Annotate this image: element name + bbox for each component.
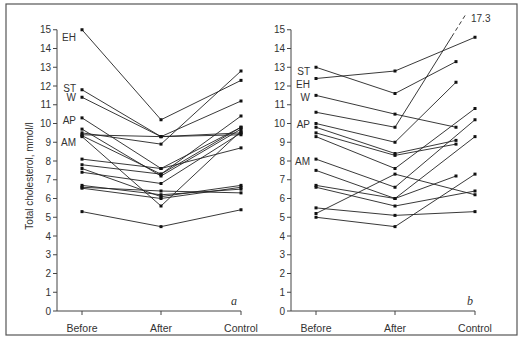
y-tick-label: 10 (274, 118, 286, 129)
y-tick-label: 11 (41, 99, 52, 110)
x-category-label: After (150, 322, 173, 334)
data-point (240, 186, 243, 189)
y-tick-label: 1 (279, 287, 285, 298)
data-point (240, 208, 243, 211)
x-category-label: Before (67, 322, 98, 334)
data-point (315, 111, 318, 114)
subject-label-eh: EH (296, 79, 310, 90)
data-point (81, 171, 84, 174)
data-point (315, 158, 318, 161)
data-point (474, 135, 477, 138)
y-tick-label: 3 (279, 249, 285, 260)
data-point (474, 107, 477, 110)
y-tick-label: 0 (45, 306, 51, 317)
data-point (315, 212, 318, 215)
y-tick-label: 5 (279, 212, 285, 223)
data-point (240, 115, 243, 118)
data-point (394, 167, 397, 170)
data-point (81, 116, 84, 119)
data-point (160, 182, 163, 185)
data-point (240, 126, 243, 129)
data-point (81, 28, 84, 31)
y-tick-label: 12 (40, 81, 52, 92)
data-point (394, 205, 397, 208)
panel-b-letter: b (467, 294, 473, 308)
data-point (315, 66, 318, 69)
data-point (394, 70, 397, 73)
data-point (160, 173, 163, 176)
data-point (474, 210, 477, 213)
data-point (315, 126, 318, 129)
y-tick-label: 0 (279, 306, 285, 317)
y-tick-label: 14 (40, 43, 52, 54)
y-tick-label: 2 (279, 268, 285, 279)
data-point (315, 122, 318, 125)
data-point (394, 92, 397, 95)
data-point (240, 70, 243, 73)
y-tick-label: 7 (279, 174, 285, 185)
y-tick-label: 4 (279, 231, 285, 242)
data-point (455, 60, 458, 63)
x-category-label: Control (458, 322, 492, 334)
y-tick-label: 8 (279, 156, 285, 167)
data-point (315, 131, 318, 134)
data-point (81, 88, 84, 91)
data-point (474, 173, 477, 176)
data-point (394, 214, 397, 217)
data-point (240, 191, 243, 194)
data-point (160, 143, 163, 146)
data-point (455, 143, 458, 146)
cholesterol-figure: Total cholesterol, mmol/l 01234567891011… (0, 0, 523, 352)
data-point (81, 167, 84, 170)
data-point (160, 205, 163, 208)
data-point (394, 154, 397, 157)
y-tick-label: 4 (45, 231, 51, 242)
subject-label-ap: AP (63, 115, 77, 126)
data-point (315, 135, 318, 138)
subject-label-ap: AP (297, 119, 311, 130)
y-tick-label: 6 (279, 193, 285, 204)
data-point (160, 167, 163, 170)
y-tick-label: 8 (45, 156, 51, 167)
subject-label-am: AM (295, 156, 310, 167)
data-point (240, 100, 243, 103)
data-point (315, 186, 318, 189)
data-point (240, 131, 243, 134)
y-tick-label: 13 (274, 62, 286, 73)
x-category-label: Before (301, 322, 332, 334)
panel-a-letter: a (231, 294, 237, 308)
y-tick-label: 1 (45, 287, 51, 298)
data-point (81, 187, 84, 190)
data-point (474, 36, 477, 39)
data-point (81, 128, 84, 131)
data-point (315, 169, 318, 172)
data-point (81, 163, 84, 166)
x-category-label: After (384, 322, 407, 334)
data-point (455, 126, 458, 129)
subject-label-w: W (301, 92, 311, 103)
y-tick-label: 14 (274, 43, 286, 54)
data-point (394, 141, 397, 144)
y-tick-label: 3 (45, 249, 51, 260)
y-tick-label: 9 (45, 137, 51, 148)
y-tick-label: 15 (40, 24, 52, 35)
data-point (160, 135, 163, 138)
data-point (394, 186, 397, 189)
data-point (81, 96, 84, 99)
data-point (394, 126, 397, 129)
subject-label-w: W (67, 92, 77, 103)
data-point (81, 134, 84, 137)
x-category-label: Control (224, 322, 258, 334)
y-axis-label: Total cholesterol, mmol/l (24, 122, 35, 229)
offscale-value-label: 17.3 (471, 13, 491, 24)
y-tick-label: 6 (45, 193, 51, 204)
data-point (394, 197, 397, 200)
data-point (315, 206, 318, 209)
chart-canvas: Total cholesterol, mmol/l 01234567891011… (0, 0, 523, 352)
data-point (160, 197, 163, 200)
y-tick-label: 10 (40, 118, 52, 129)
data-point (394, 225, 397, 228)
data-point (160, 190, 163, 193)
subject-label-am: AM (61, 137, 76, 148)
data-point (455, 139, 458, 142)
